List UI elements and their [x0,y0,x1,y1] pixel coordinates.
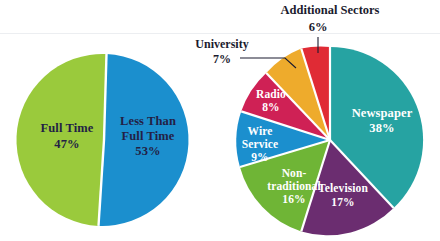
callout-value-additional-sectors: 6% [309,20,328,34]
callout-label-university: University [195,37,248,51]
right-pie-label-wire-service-line1: Wire [248,125,273,137]
right-pie-label-newspaper: Newspaper [352,106,413,120]
right-pie-value-television: 17% [331,196,354,208]
right-pie-label-non-traditional-line1: Non- [282,167,307,179]
left-pie-value-less-than-full-time: 53% [135,144,160,158]
right-pie-value-wire-service: 9% [251,151,268,163]
right-pie-value-radio: 8% [262,101,279,113]
left-pie-label-less-than-full-time-line1: Less Than [120,114,176,128]
right-pie-value-non-traditional: 16% [282,193,305,205]
left-pie-label-full-time: Full Time [41,121,94,135]
left-pie-value-full-time: 47% [54,137,79,151]
callout-label-additional-sectors: Additional Sectors [281,3,380,17]
right-pie-label-radio: Radio [256,88,286,100]
left-pie-chart: Full Time 47% Less Than Full Time 53% [16,54,188,226]
callout-value-university: 7% [213,52,231,66]
chart-canvas: Full Time 47% Less Than Full Time 53% [0,0,440,241]
right-pie-label-television: Television [318,182,368,194]
right-pie-label-non-traditional-line2: traditional [267,180,321,192]
left-pie-label-less-than-full-time-line2: Full Time [122,129,175,143]
right-pie-value-newspaper: 38% [369,121,394,135]
right-pie-chart: Newspaper 38% Television 17% Non- tradit… [195,3,423,235]
pie-charts-svg: Full Time 47% Less Than Full Time 53% [0,0,440,241]
right-pie-label-wire-service-line2: Service [242,138,278,150]
